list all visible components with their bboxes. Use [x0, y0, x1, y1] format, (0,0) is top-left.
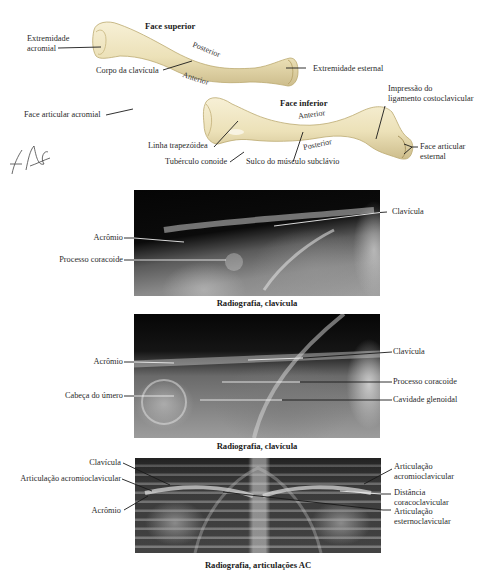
r3-clavicle-label: Clavícula	[89, 458, 121, 468]
r3-caption: Radiografia, articulações AC	[135, 560, 381, 570]
r3-ac-joint-left-label: Articulação acromioclavicular	[20, 474, 121, 484]
r3-sc-joint-label: Articulação esternoclavicular	[394, 507, 451, 526]
r3-ac-joint-right-label: Articulação acromioclavicular	[394, 462, 454, 481]
r3-acromion-label: Acrômio	[92, 506, 122, 516]
r3-cc-distance-label: Distância coracoclavicular	[394, 488, 449, 507]
